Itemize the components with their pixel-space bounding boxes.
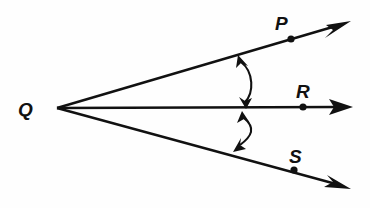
geometry-canvas: Q P R S [0,0,370,208]
point-p-dot [287,35,294,42]
angle-arc-pqr [236,55,252,109]
angle-arc-rqs-curve [240,118,251,145]
point-r-label: R [296,81,310,102]
point-s-label: S [289,146,302,167]
ray-qs-group [57,108,351,189]
vertex-q-label: Q [18,99,33,120]
point-s-dot [290,166,297,173]
ray-qr-line [57,107,338,108]
geometry-figure: Q P R S [0,0,370,208]
ray-qp-arrowhead [325,21,351,38]
angle-arc-rqs-arrow-bottom [233,138,246,152]
angle-arc-rqs [233,111,251,152]
angle-arc-rqs-arrow-top [237,111,250,123]
point-r-dot [299,103,306,110]
angle-arc-pqr-curve [241,62,251,102]
point-p-label: P [275,13,288,34]
